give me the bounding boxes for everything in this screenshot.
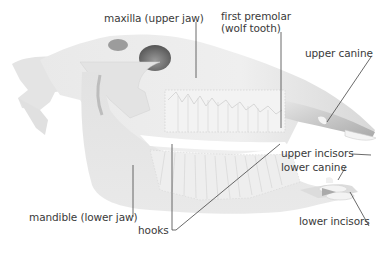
label-hooks: hooks bbox=[138, 224, 169, 236]
fossa bbox=[108, 39, 128, 51]
label-upper-incisors: upper incisors bbox=[281, 147, 354, 159]
horse-skull-diagram: maxilla (upper jaw) first premolar (wolf… bbox=[0, 0, 388, 253]
label-lower-incisors: lower incisors bbox=[299, 215, 370, 227]
label-lower-canine: lower canine bbox=[281, 161, 347, 173]
label-mandible: mandible (lower jaw) bbox=[29, 211, 137, 223]
label-first-premolar: first premolar (wolf tooth) bbox=[221, 10, 291, 34]
label-upper-canine: upper canine bbox=[305, 47, 373, 59]
lower-canine-tooth bbox=[326, 177, 333, 183]
label-maxilla: maxilla (upper jaw) bbox=[104, 12, 204, 24]
upper-cheek-teeth bbox=[165, 90, 285, 132]
